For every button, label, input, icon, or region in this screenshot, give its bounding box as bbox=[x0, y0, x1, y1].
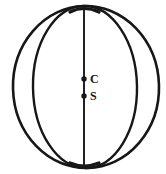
figure-container: C S bbox=[0, 0, 166, 174]
point-marker-s bbox=[81, 93, 86, 98]
sphere-meridian-diagram bbox=[0, 0, 166, 174]
point-marker-c bbox=[81, 76, 86, 81]
point-label-s: S bbox=[90, 90, 97, 102]
meridian-ellipse bbox=[32, 5, 139, 169]
point-label-c: C bbox=[90, 73, 99, 85]
